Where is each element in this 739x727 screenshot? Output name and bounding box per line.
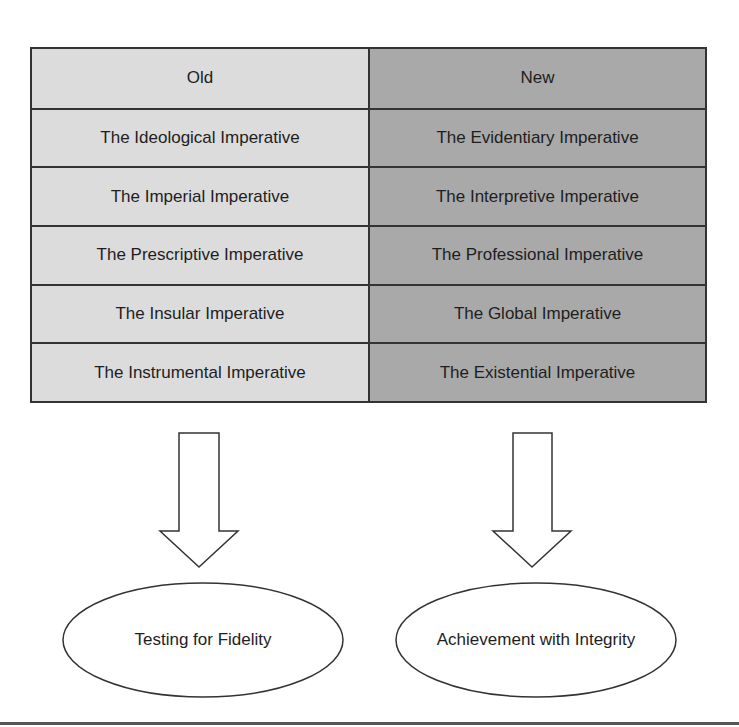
outcome-old-label: Testing for Fidelity <box>63 630 343 650</box>
down-arrow-icon <box>160 433 238 567</box>
bottom-divider <box>0 722 739 725</box>
outcome-new-label: Achievement with Integrity <box>396 630 676 650</box>
flow-graphics <box>0 0 739 727</box>
down-arrow-icon <box>493 433 571 567</box>
